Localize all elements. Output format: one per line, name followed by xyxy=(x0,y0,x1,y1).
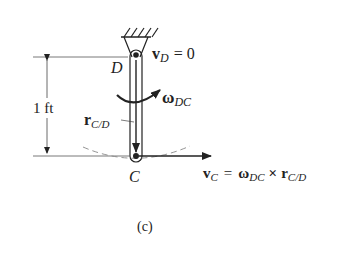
point-d-label: D xyxy=(110,59,123,76)
figure-caption: (c) xyxy=(137,219,153,235)
r-leader-line xyxy=(121,120,134,122)
v-c-equation: vC=ωDC×rC/D xyxy=(203,165,306,183)
pivot-pin-d xyxy=(133,52,139,58)
point-c-label: C xyxy=(129,168,140,185)
omega-rotation-arrow xyxy=(117,90,160,102)
rigid-body-kinematics-diagram: 1 ft D C vD= 0 ωDC rC/D vC=ωDC×rC/D (c) xyxy=(0,0,358,270)
r-cd-label: rC/D xyxy=(84,111,110,130)
dimension-label: 1 ft xyxy=(33,100,54,116)
v-d-equation: vD= 0 xyxy=(152,45,195,65)
omega-dc-label: ωDC xyxy=(162,88,192,109)
point-c-pin xyxy=(133,153,139,159)
